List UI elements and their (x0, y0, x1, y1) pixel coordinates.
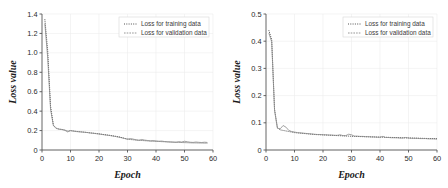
x-axis-title: Epoch (337, 169, 365, 180)
x-axis-title: Epoch (113, 169, 141, 180)
y-tick-label: 0.4 (251, 37, 261, 46)
series-line (45, 19, 207, 143)
y-axis-title: Loss value (7, 60, 18, 105)
x-tick-label: 60 (433, 154, 441, 163)
x-tick-label: 0 (264, 154, 268, 163)
chart-svg-right: 00.10.20.30.40.50102030405060EpochLoss v… (224, 0, 448, 188)
chart-svg-left: 00.20.40.60.81.01.21.40102030405060Epoch… (0, 0, 224, 188)
x-tick-label: 30 (347, 154, 355, 163)
x-tick-label: 20 (95, 154, 103, 163)
x-tick-label: 10 (290, 154, 298, 163)
x-tick-label: 40 (152, 154, 160, 163)
x-tick-label: 50 (180, 154, 188, 163)
x-tick-label: 40 (376, 154, 384, 163)
chart-panel-right: 00.10.20.30.40.50102030405060EpochLoss v… (224, 0, 448, 188)
y-tick-label: 0.4 (27, 107, 37, 116)
y-tick-label: 1.0 (27, 48, 37, 57)
y-axis-title: Loss value (231, 60, 242, 105)
y-tick-label: 0.8 (27, 68, 37, 77)
figure-container: 00.20.40.60.81.01.21.40102030405060Epoch… (0, 0, 448, 188)
y-tick-label: 0.6 (27, 87, 37, 96)
legend-label: Loss for validation data (141, 29, 207, 36)
y-tick-label: 0.2 (27, 126, 37, 135)
chart-panel-left: 00.20.40.60.81.01.21.40102030405060Epoch… (0, 0, 224, 188)
y-tick-label: 0.3 (251, 64, 261, 73)
y-tick-label: 0 (257, 146, 261, 155)
x-tick-label: 30 (123, 154, 131, 163)
series-line (269, 33, 437, 139)
legend-label: Loss for training data (365, 20, 425, 28)
x-tick-label: 0 (40, 154, 44, 163)
legend-label: Loss for validation data (365, 29, 431, 36)
x-tick-label: 50 (404, 154, 412, 163)
x-tick-label: 10 (66, 154, 74, 163)
series-line (269, 30, 437, 138)
y-tick-label: 0.5 (251, 10, 261, 19)
x-tick-label: 60 (209, 154, 217, 163)
y-tick-label: 0.1 (251, 118, 261, 127)
y-tick-label: 1.2 (27, 29, 37, 38)
y-tick-label: 0 (33, 146, 37, 155)
legend-label: Loss for training data (141, 20, 201, 28)
series-line (45, 24, 207, 143)
y-tick-label: 1.4 (27, 10, 37, 19)
y-tick-label: 0.2 (251, 91, 261, 100)
x-tick-label: 20 (319, 154, 327, 163)
